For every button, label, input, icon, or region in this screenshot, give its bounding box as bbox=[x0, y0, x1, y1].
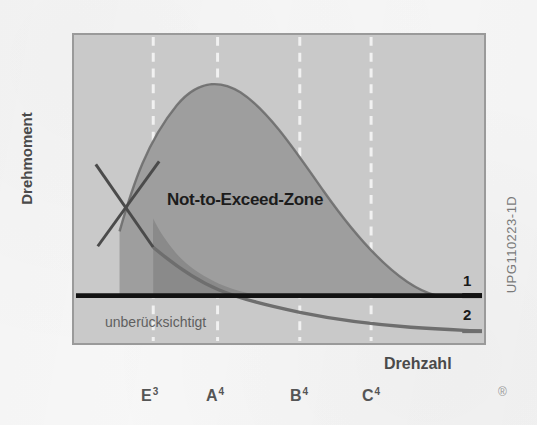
registered-mark-icon: ® bbox=[498, 385, 507, 399]
plot-canvas bbox=[74, 35, 484, 343]
not-to-exceed-zone-label: Not-to-Exceed-Zone bbox=[167, 190, 323, 210]
excluded-region-label: unberücksichtigt bbox=[105, 314, 206, 330]
legend-entry-2: 2 bbox=[463, 306, 471, 323]
figure-page: Drehmoment bbox=[0, 0, 537, 425]
xtick-label-b4: B4 bbox=[290, 386, 308, 405]
xtick-sup-3: 3 bbox=[153, 386, 159, 397]
xtick-label-a4: A4 bbox=[206, 386, 224, 405]
y-axis-title: Drehmoment bbox=[18, 89, 35, 229]
xtick-base-b: B bbox=[290, 387, 302, 404]
plot-frame: Not-to-Exceed-Zone unberücksichtigt bbox=[72, 33, 486, 345]
xtick-base-e: E bbox=[141, 387, 152, 404]
xtick-sup-4c: 4 bbox=[375, 386, 381, 397]
xtick-base-a: A bbox=[206, 387, 218, 404]
xtick-sup-4a: 4 bbox=[219, 386, 225, 397]
side-reference-code: UPG110223-1D bbox=[504, 175, 519, 315]
xtick-base-c: C bbox=[362, 387, 374, 404]
xtick-label-e3: E3 bbox=[141, 386, 158, 405]
xtick-label-c4: C4 bbox=[362, 386, 380, 405]
xtick-sup-4b: 4 bbox=[303, 386, 309, 397]
x-axis-title: Drehzahl bbox=[384, 355, 452, 373]
legend-entry-1: 1 bbox=[463, 272, 471, 289]
